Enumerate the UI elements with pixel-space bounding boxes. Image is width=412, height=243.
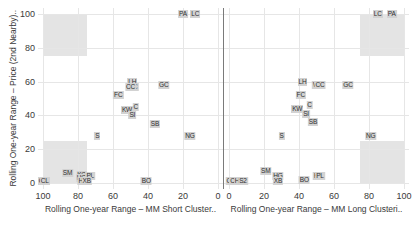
data-point-label: GC: [342, 81, 353, 89]
x-tick-label: 100: [35, 191, 50, 201]
gridline-vertical: [369, 8, 370, 189]
x-tick-label: 80: [73, 191, 83, 201]
data-point-label: SI: [302, 110, 310, 118]
data-point-label: SM: [260, 167, 271, 175]
gridline-horizontal: [224, 183, 409, 184]
data-point-label: CC: [125, 83, 136, 91]
panel-mm-short-cluster: PALCLHWCCCGCFCCKWSISBSNGSMKCHGPLHOXBCBCL…: [38, 8, 224, 189]
data-point-label: S2: [238, 177, 248, 185]
gridline-horizontal: [224, 149, 409, 150]
y-tick-label: 80: [25, 43, 35, 53]
upper-left-quadrant: [43, 14, 87, 56]
data-point-label: NG: [184, 132, 195, 140]
data-point-label: SB: [150, 120, 160, 128]
data-point-label: PA: [387, 10, 397, 18]
data-point-label: LC: [190, 10, 200, 18]
x-tick-label: 40: [143, 191, 153, 201]
x-tick-label: 20: [259, 191, 269, 201]
data-point-label: LC: [373, 10, 383, 18]
panels-container: PALCLHWCCCGCFCCKWSISBSNGSMKCHGPLHOXBCBCL…: [38, 8, 409, 189]
plot-area-long: LCPALHWCCCGCFCCKWSISBSNGSMHGXBBOKCPLCBCL…: [224, 8, 409, 189]
plot-area-short: PALCLHWCCCGCFCCKWSISBSNGSMKCHGPLHOXBCBCL…: [38, 8, 223, 189]
x-tick-label: 20: [178, 191, 188, 201]
panel-mm-long-cluster: LCPALHWCCCGCFCCKWSISBSNGSMHGXBBOKCPLCBCL…: [224, 8, 409, 189]
data-point-label: C: [133, 103, 140, 111]
x-tick-label: 40: [294, 191, 304, 201]
y-tick-label: 100: [20, 9, 35, 19]
x-tick-label: 100: [396, 191, 411, 201]
data-point-label: LH: [298, 78, 308, 86]
data-point-label: S: [278, 132, 284, 140]
data-point-label: FC: [296, 91, 306, 99]
y-tick-label: 0: [30, 178, 35, 188]
gridline-horizontal: [38, 48, 223, 49]
data-point-label: CC: [315, 81, 326, 89]
gridline-horizontal: [38, 183, 223, 184]
data-point-label: BO: [299, 176, 310, 184]
data-point-label: NG: [365, 132, 376, 140]
gridline-vertical: [148, 8, 149, 189]
data-point-label: BO: [141, 177, 152, 185]
x-axis-title-long: Rolling One-year Range – MM Long Cluster…: [224, 204, 409, 215]
gridline-horizontal: [224, 48, 409, 49]
gridline-vertical: [334, 8, 335, 189]
gridline-vertical: [229, 8, 230, 189]
data-point-label: SM: [62, 169, 73, 177]
data-point-label: XB: [273, 177, 283, 185]
data-point-label: GC: [158, 81, 169, 89]
data-point-label: XB: [82, 177, 92, 185]
gridline-horizontal: [224, 115, 409, 116]
data-point-label: FC: [113, 91, 123, 99]
x-axis-ticks-short: 100806040200: [38, 189, 223, 203]
x-axis-ticks-long: 020406080100: [224, 189, 409, 203]
x-tick-label: 60: [329, 191, 339, 201]
data-point-label: PL: [315, 172, 325, 180]
y-tick-label: 20: [25, 144, 35, 154]
y-tick-label: 60: [25, 77, 35, 87]
gridline-horizontal: [38, 149, 223, 150]
lower-right-quadrant: [360, 141, 404, 183]
gridline-vertical: [218, 8, 219, 189]
x-tick-label: 80: [364, 191, 374, 201]
gridline-vertical: [78, 8, 79, 189]
gridline-vertical: [404, 8, 405, 189]
upper-right-quadrant: [360, 14, 404, 56]
x-axis-title-short: Rolling One-year Range – MM Short Cluste…: [38, 204, 223, 215]
y-axis-ticks: 020406080100: [0, 0, 38, 196]
y-tick-label: 40: [25, 110, 35, 120]
data-point-label: SI: [128, 111, 136, 119]
data-point-label: C: [306, 101, 313, 109]
x-tick-label: 0: [215, 191, 220, 201]
x-tick-label: 60: [108, 191, 118, 201]
data-point-label: S: [94, 132, 100, 140]
data-point-label: CL: [40, 177, 50, 185]
gridline-vertical: [43, 8, 44, 189]
x-tick-label: 0: [226, 191, 231, 201]
data-point-label: PA: [178, 10, 188, 18]
gridline-vertical: [183, 8, 184, 189]
data-point-label: SB: [308, 118, 318, 126]
gridline-vertical: [264, 8, 265, 189]
